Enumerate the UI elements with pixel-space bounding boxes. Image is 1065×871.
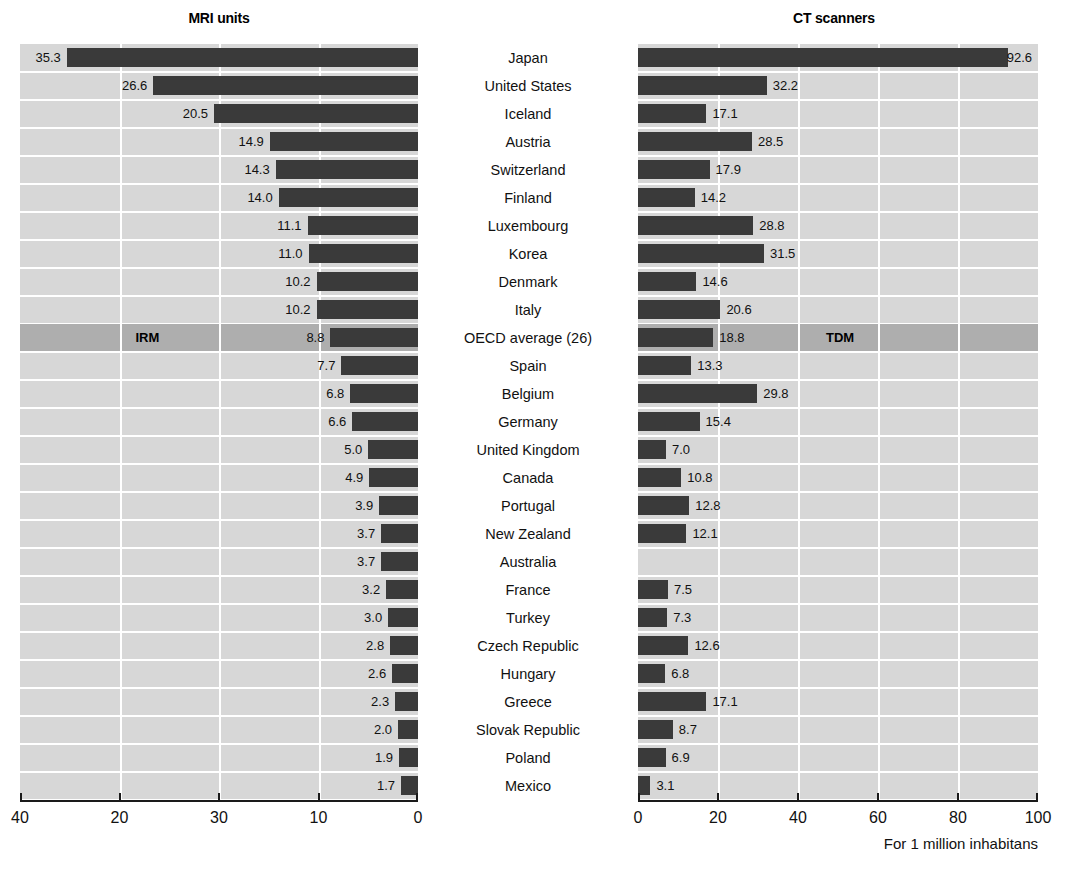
bar-value-label: 18.8 [719, 328, 744, 347]
bar-value-label: 14.9 [238, 132, 263, 151]
bar [638, 440, 666, 459]
bar-value-label: 14.3 [244, 160, 269, 179]
bar-value-label: 12.8 [695, 496, 720, 515]
bar [638, 272, 696, 291]
bar-value-label: 10.2 [285, 300, 310, 319]
bar-value-label: 6.8 [671, 664, 689, 683]
bar [638, 468, 681, 487]
category-label: Slovak Republic [424, 716, 632, 745]
bar-value-label: 7.0 [672, 440, 690, 459]
bar [276, 160, 418, 179]
bar [153, 76, 418, 95]
bar [388, 608, 418, 627]
bar-value-label: 17.1 [712, 104, 737, 123]
axis-tick-label: 80 [928, 809, 988, 827]
chart-row [638, 772, 1038, 801]
left-chart-title: MRI units [20, 10, 418, 26]
bar-value-label: 12.6 [694, 636, 719, 655]
bar-value-label: 15.4 [706, 412, 731, 431]
bar-value-label: 6.9 [672, 748, 690, 767]
axis-tick [1036, 793, 1038, 800]
category-label: Canada [424, 464, 632, 493]
gridline [319, 44, 321, 800]
bar [638, 496, 689, 515]
bar-value-label: 17.9 [716, 160, 741, 179]
bar-value-label: 1.9 [375, 748, 393, 767]
category-label: Iceland [424, 100, 632, 129]
bar [309, 244, 418, 263]
bar-value-label: 7.7 [317, 356, 335, 375]
category-label: France [424, 576, 632, 605]
axis-tick [20, 793, 22, 800]
bar-value-label: 14.2 [701, 188, 726, 207]
axis-tick-label: 20 [90, 809, 150, 827]
bar-value-label: 11.1 [277, 216, 301, 235]
bar [638, 776, 650, 795]
axis-tick [416, 793, 418, 800]
category-label: OECD average (26) [424, 324, 632, 353]
bar-value-label: 3.2 [362, 580, 380, 599]
category-label: Australia [424, 548, 632, 577]
gridline [878, 44, 880, 800]
bar-value-label: 2.8 [366, 636, 384, 655]
figure-root: MRI units CT scanners 35.326.620.514.914… [0, 0, 1065, 871]
chart-row [638, 184, 1038, 213]
bar-value-label: 14.0 [247, 188, 272, 207]
axis-tick-label: 0 [388, 809, 448, 827]
bar-value-label: 6.6 [328, 412, 346, 431]
bar [390, 636, 418, 655]
bar-value-label: 1.7 [377, 776, 395, 795]
bar [401, 776, 418, 795]
chart-row [638, 268, 1038, 297]
bar [392, 664, 418, 683]
category-label: Portugal [424, 492, 632, 521]
bar [638, 636, 688, 655]
category-label: Hungary [424, 660, 632, 689]
right-chart-title: CT scanners [638, 10, 1030, 26]
category-label: Austria [424, 128, 632, 157]
axis-tick-label: 0 [608, 809, 668, 827]
bar-value-label: 29.8 [763, 384, 788, 403]
category-label: Finland [424, 184, 632, 213]
axis-tick [638, 793, 640, 800]
bar [352, 412, 418, 431]
bar-value-label: 4.9 [345, 468, 363, 487]
axis-unit-label: For 1 million inhabitans [884, 835, 1038, 852]
bar [379, 496, 418, 515]
bar-value-label: 35.3 [35, 48, 60, 67]
bar [214, 104, 418, 123]
chart-row [638, 744, 1038, 773]
bar [638, 328, 713, 347]
bar [270, 132, 418, 151]
bar [638, 48, 1008, 67]
axis-tick-label: 10 [289, 809, 349, 827]
bar [638, 104, 706, 123]
gridline [120, 44, 122, 800]
ct-plot-area: 92.632.217.128.517.914.228.831.514.620.6… [638, 44, 1038, 800]
bar [638, 188, 695, 207]
bar [638, 524, 686, 543]
bar [638, 132, 752, 151]
gridline [219, 44, 221, 800]
bar [381, 552, 418, 571]
chart-row [638, 548, 1038, 577]
bar-value-label: 2.3 [371, 692, 389, 711]
axis-tick-label: 20 [688, 809, 748, 827]
category-label: Spain [424, 352, 632, 381]
bar [308, 216, 418, 235]
category-label: Denmark [424, 268, 632, 297]
ct-series-tag: TDM [826, 328, 854, 347]
category-label: Korea [424, 240, 632, 269]
bar [638, 244, 764, 263]
axis-tick [318, 793, 320, 800]
mri-series-tag: IRM [136, 328, 160, 347]
axis-tick [797, 793, 799, 800]
bar-value-label: 10.2 [285, 272, 310, 291]
axis-tick [717, 793, 719, 800]
category-label: Switzerland [424, 156, 632, 185]
category-label: Germany [424, 408, 632, 437]
bar-value-label: 14.6 [702, 272, 727, 291]
category-label: Italy [424, 296, 632, 325]
bar [638, 412, 700, 431]
gridline [798, 44, 800, 800]
